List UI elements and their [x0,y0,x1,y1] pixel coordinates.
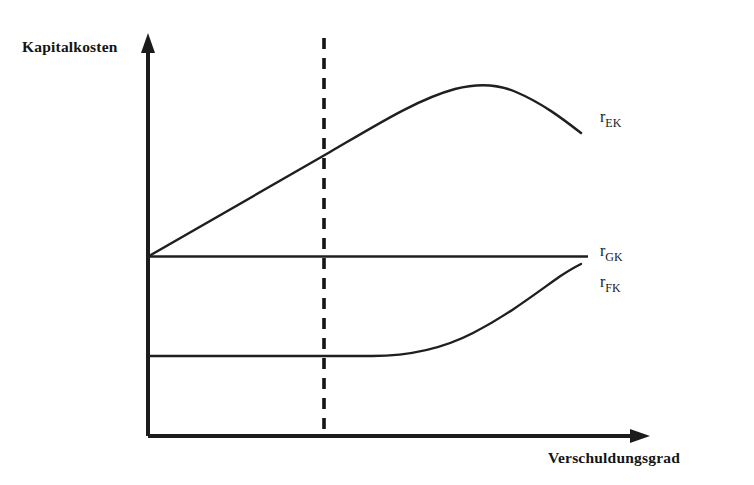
x-axis-title: Verschuldungsgrad [548,449,680,466]
y-axis-title: Kapitalkosten [22,38,118,55]
chart-background [0,0,754,485]
capital-cost-leverage-chart: Kapitalkosten Verschuldungsgrad rEK rGK … [0,0,754,485]
label-r-gk-subscript: GK [605,250,623,264]
label-r-fk-subscript: FK [605,281,621,295]
chart-container: Kapitalkosten Verschuldungsgrad rEK rGK … [0,0,754,485]
label-r-ek-subscript: EK [605,116,621,130]
